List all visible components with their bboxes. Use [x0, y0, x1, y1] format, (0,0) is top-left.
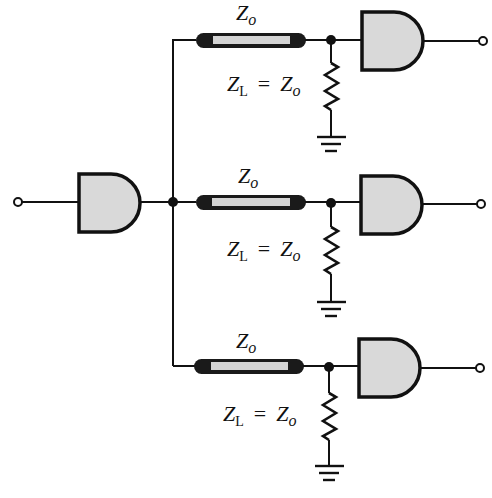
termination-resistor-icon: [325, 227, 338, 274]
ground-icon: [317, 137, 346, 151]
branch-bottom: Zo ZL=Zo: [194, 328, 484, 480]
branch-middle: Zo ZL=Zo: [196, 163, 485, 316]
receiver-and-gate-icon: [359, 339, 420, 397]
line-impedance-label: Zo: [236, 0, 256, 28]
circuit-diagram: Zo ZL=Zo Zo: [0, 0, 492, 498]
branch-top: Zo ZL=Zo: [196, 0, 487, 151]
ground-icon: [315, 466, 344, 480]
transmission-line-core: [213, 36, 290, 44]
line-impedance-label: Zo: [238, 163, 258, 191]
load-impedance-label: ZL=Zo: [227, 71, 300, 99]
line-impedance-label: Zo: [236, 328, 256, 356]
load-impedance-label: ZL=Zo: [227, 236, 300, 264]
ground-icon: [317, 302, 346, 316]
receiver-and-gate-icon: [362, 12, 423, 70]
output-terminal: [479, 37, 487, 45]
output-terminal: [477, 200, 485, 208]
transmission-line-core: [211, 362, 288, 370]
load-impedance-label: ZL=Zo: [223, 401, 296, 429]
receiver-and-gate-icon: [361, 176, 422, 234]
termination-resistor-icon: [325, 63, 338, 110]
driver-section: [14, 39, 196, 366]
driver-and-gate-icon: [79, 174, 140, 232]
output-terminal: [476, 364, 484, 372]
input-terminal: [14, 198, 22, 206]
transmission-line-core: [212, 198, 290, 206]
termination-resistor-icon: [323, 393, 336, 440]
